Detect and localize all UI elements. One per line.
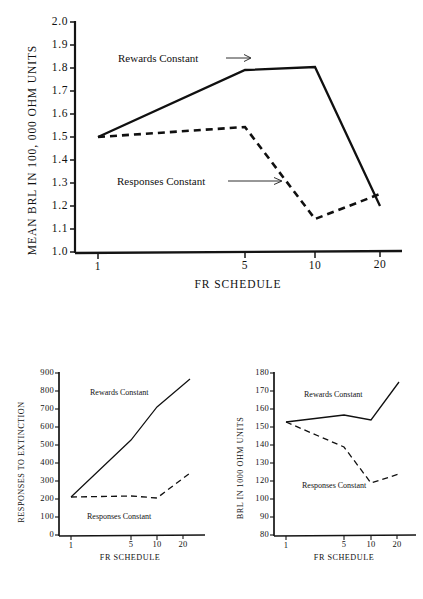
- y-axis-title-bottom-right: BRL IN 1000 OHM UNITS: [236, 417, 245, 520]
- annotation-label-rewards-constant: Rewards Constant: [118, 52, 198, 64]
- annotation-label-responses-constant: Responses Constant: [87, 512, 152, 521]
- y-tick-label: 200: [40, 493, 54, 503]
- y-tick-label: 900: [40, 367, 54, 377]
- x-axis-line-bottom-right: [274, 535, 416, 536]
- x-tick-label: 20: [178, 539, 187, 549]
- x-tick-label: 10: [152, 539, 161, 549]
- x-tick-label: 10: [309, 259, 322, 271]
- y-tick-label: 1.6: [52, 107, 68, 119]
- x-axis-title-bottom-left: FR SCHEDULE: [100, 553, 160, 562]
- y-axis-title-top: MEAN BRL IN 100, 000 OHM UNITS: [26, 45, 39, 255]
- y-tick-label: 120: [255, 475, 269, 485]
- x-tick-label: 1: [95, 260, 101, 272]
- x-tick-label: 5: [342, 539, 347, 549]
- y-tick-label: 130: [255, 457, 269, 467]
- y-tick-label: 1.2: [52, 199, 68, 211]
- x-tick-label: 10: [366, 539, 375, 549]
- annotation-label-rewards-constant: Rewards Constant: [304, 390, 363, 399]
- y-tick-label: 100: [255, 493, 269, 503]
- x-tick-label: 20: [392, 539, 401, 549]
- chart-panel-top: MEAN BRL IN 100, 000 OHM UNITS 2.0 1.9 1…: [0, 0, 423, 300]
- annotation-label-rewards-constant: Rewards Constant: [90, 388, 149, 397]
- x-axis-title-top: FR SCHEDULE: [195, 278, 282, 290]
- chart-svg-top: MEAN BRL IN 100, 000 OHM UNITS 2.0 1.9 1…: [0, 0, 423, 300]
- annotation-label-responses-constant: Responses Constant: [302, 481, 367, 490]
- chart-panel-bottom-left: RESPONSES TO EXTINCTION 900 800 700 600 …: [0, 340, 212, 599]
- y-tick-label: 1.1: [52, 222, 68, 234]
- x-tick-label: 20: [374, 258, 387, 270]
- y-tick-label: 500: [40, 439, 54, 449]
- figure-container: MEAN BRL IN 100, 000 OHM UNITS 2.0 1.9 1…: [0, 0, 423, 599]
- y-tick-label: 150: [255, 421, 269, 431]
- y-tick-label: 100: [40, 511, 54, 521]
- annotation-label-responses-constant: Responses Constant: [117, 175, 205, 187]
- annotation-arrow-responses-constant: [228, 178, 282, 185]
- y-tick-label: 140: [255, 439, 269, 449]
- y-tick-label: 2.0: [52, 15, 68, 27]
- y-tick-label: 180: [255, 367, 269, 377]
- y-tick-label: 800: [40, 385, 54, 395]
- y-tick-label: 1.8: [52, 61, 68, 73]
- chart-svg-bottom-left: RESPONSES TO EXTINCTION 900 800 700 600 …: [0, 340, 212, 599]
- y-axis-title-bottom-left: RESPONSES TO EXTINCTION: [17, 401, 26, 522]
- y-tick-label: 80: [260, 529, 269, 539]
- series-line-responses-constant: [98, 127, 380, 219]
- y-tick-label: 1.7: [52, 84, 68, 96]
- series-line-responses-constant: [286, 422, 399, 483]
- y-tick-label: 300: [40, 475, 54, 485]
- x-tick-label: 5: [242, 259, 248, 271]
- x-axis-line-top: [75, 251, 402, 253]
- y-tick-label: 1.4: [52, 153, 68, 165]
- y-tick-label: 1.9: [52, 38, 68, 50]
- y-tick-label: 90: [260, 511, 269, 521]
- chart-panel-bottom-right: BRL IN 1000 OHM UNITS 180 170 160 150 14…: [211, 340, 423, 599]
- chart-svg-bottom-right: BRL IN 1000 OHM UNITS 180 170 160 150 14…: [211, 340, 423, 599]
- series-line-responses-constant: [71, 473, 190, 498]
- x-tick-label: 1: [69, 540, 74, 550]
- y-tick-label: 160: [255, 403, 269, 413]
- annotation-arrow-rewards-constant: [226, 55, 251, 62]
- x-tick-label: 5: [129, 539, 134, 549]
- series-line-rewards-constant: [286, 382, 399, 422]
- x-tick-label: 1: [284, 540, 289, 550]
- x-axis-title-bottom-right: FR SCHEDULE: [314, 553, 374, 562]
- y-tick-label: 1.0: [52, 245, 68, 257]
- y-tick-label: 700: [40, 403, 54, 413]
- y-tick-label: 1.5: [52, 130, 68, 142]
- y-tick-label: 600: [40, 421, 54, 431]
- y-tick-label: 170: [255, 385, 269, 395]
- y-tick-label: 0: [49, 529, 54, 539]
- y-tick-label: 400: [40, 457, 54, 467]
- y-tick-label: 1.3: [52, 176, 68, 188]
